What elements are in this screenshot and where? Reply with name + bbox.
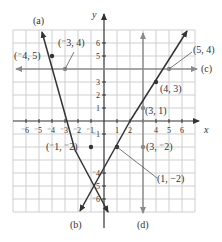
- svg-text:1: 1: [96, 104, 100, 113]
- svg-text:⁻1: ⁻1: [92, 130, 100, 139]
- svg-text:5: 5: [96, 52, 100, 61]
- svg-text:⁻2: ⁻2: [73, 126, 81, 135]
- svg-text:3: 3: [96, 78, 100, 87]
- point-m4-5: [50, 54, 54, 58]
- svg-text:⁻6: ⁻6: [92, 195, 100, 204]
- svg-text:4: 4: [154, 126, 158, 135]
- label-point-5-4: (5, 4): [193, 44, 215, 56]
- x-axis-label: x: [203, 124, 209, 135]
- svg-text:6: 6: [96, 39, 100, 48]
- label-point-m1-m2: (⁻1, ⁻2): [46, 141, 78, 153]
- svg-text:2: 2: [128, 126, 132, 135]
- label-point-m3-4: (⁻3, 4): [58, 37, 85, 49]
- label-point-3-1: (3, 1): [145, 105, 167, 117]
- y-axis-label: y: [91, 9, 97, 20]
- svg-text:2: 2: [96, 91, 100, 100]
- svg-text:⁻4: ⁻4: [47, 126, 55, 135]
- svg-text:⁻6: ⁻6: [21, 126, 29, 135]
- label-a: (a): [33, 15, 44, 27]
- label-c: (c): [201, 63, 212, 75]
- label-point-1-m2: (1, −2): [157, 173, 184, 185]
- svg-text:⁻3: ⁻3: [60, 126, 68, 135]
- label-d: (d): [137, 219, 149, 231]
- svg-text:6: 6: [180, 126, 184, 135]
- point-m1-m2: [89, 145, 93, 149]
- coordinate-plane: x y ⁻6 ⁻5 ⁻4 ⁻3 ⁻2 ⁻1 1 2 4 5 6 6 5 3 2 …: [0, 0, 222, 242]
- label-point-4-3: (4, 3): [160, 83, 182, 95]
- label-point-m4-5: (⁻4, 5): [14, 50, 41, 62]
- svg-text:1: 1: [115, 126, 119, 135]
- point-3-m2: [141, 145, 145, 149]
- label-point-3-m2: (3, ⁻2): [146, 141, 173, 153]
- svg-text:5: 5: [167, 126, 171, 135]
- svg-text:⁻5: ⁻5: [34, 126, 42, 135]
- point-4-3: [154, 80, 158, 84]
- leader-m3-4: [65, 52, 74, 69]
- label-b: (b): [70, 219, 82, 231]
